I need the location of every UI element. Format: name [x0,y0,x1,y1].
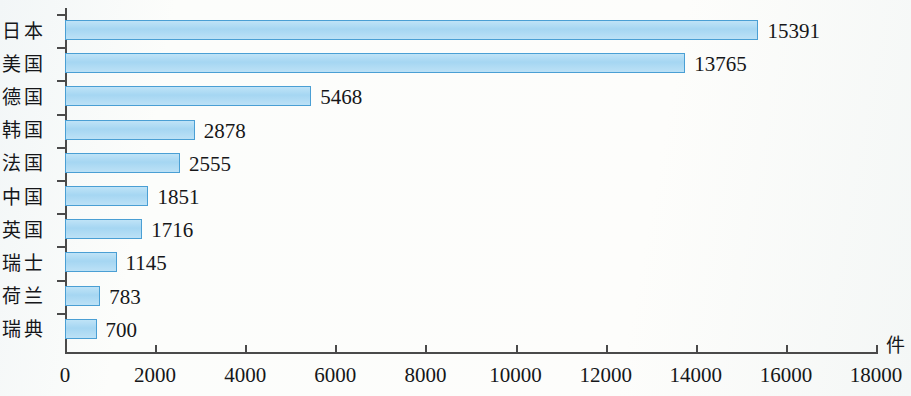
category-label: 瑞士 [2,254,60,273]
x-axis-tick-label: 18000 [850,364,903,386]
x-axis-tick-label: 0 [60,364,71,386]
bar-value-label: 2878 [204,121,246,142]
category-label: 美国 [2,55,60,74]
bar-value-label: 1851 [157,187,199,208]
bar-value-label: 2555 [189,154,231,175]
plot-area: 1539113765546828782555185117161145783700 [65,8,876,352]
category-label: 韩国 [2,121,60,140]
category-label: 德国 [2,88,60,107]
x-axis-tick-label: 8000 [404,364,446,386]
unit-label: 件 [886,336,905,355]
bar-value-label: 783 [109,287,141,308]
bar [65,252,117,272]
bar [65,286,100,306]
x-axis-tick [516,345,518,354]
bar [65,186,148,206]
category-label: 瑞典 [2,320,60,339]
x-axis-tick [696,345,698,354]
category-label: 法国 [2,154,60,173]
bar [65,219,142,239]
x-axis-tick [245,345,247,354]
x-axis-tick [335,345,337,354]
bar [65,20,758,40]
category-label: 英国 [2,221,60,240]
x-axis-tick-label: 12000 [579,364,632,386]
bar-value-label: 700 [106,320,138,341]
x-axis-tick-label: 6000 [314,364,356,386]
bar-value-label: 1145 [126,253,167,274]
x-axis-line [65,352,877,354]
bar [65,53,685,73]
x-axis-tick-label: 4000 [224,364,266,386]
category-label: 中国 [2,188,60,207]
bar-value-label: 15391 [767,21,820,42]
x-axis-tick-label: 16000 [760,364,813,386]
x-axis-tick-label: 10000 [489,364,542,386]
bar [65,153,180,173]
bar [65,86,311,106]
horizontal-bar-chart: 日本美国德国韩国法国中国英国瑞士荷兰瑞典 1539113765546828782… [0,0,911,396]
x-axis-tick-label: 14000 [670,364,723,386]
x-axis-tick [425,345,427,354]
x-axis-tick [786,345,788,354]
bar-value-label: 13765 [694,54,747,75]
bar [65,120,195,140]
bar-value-label: 5468 [320,87,362,108]
x-axis-tick-label: 2000 [134,364,176,386]
bar [65,319,97,339]
x-axis-tick [606,345,608,354]
bar-value-label: 1716 [151,220,193,241]
x-axis-tick [65,345,67,354]
x-axis-tick [155,345,157,354]
category-label: 荷兰 [2,287,60,306]
category-label: 日本 [2,22,60,41]
x-axis-tick [876,345,878,354]
